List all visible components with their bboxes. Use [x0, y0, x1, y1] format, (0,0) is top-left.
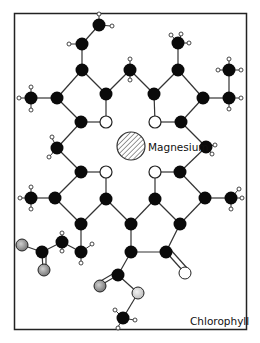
diagram-title: Chlorophyll [190, 315, 249, 327]
hydrogen-bonds [20, 15, 241, 327]
hydrogen-atoms [17, 12, 244, 330]
chlorophyll-diagram: Magnesium Chlorophyll [0, 0, 260, 343]
magnesium-label: Magnesium [148, 141, 209, 153]
carbon-atoms [25, 19, 238, 325]
magnesium-atom [117, 132, 145, 160]
